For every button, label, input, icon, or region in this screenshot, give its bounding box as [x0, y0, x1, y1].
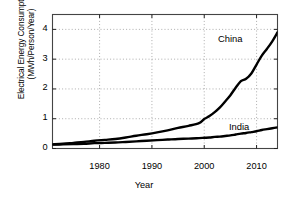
chart-figure: Electrical Energy Consumption (MWh/Perso… [0, 0, 288, 199]
y-tick-label: 4 [28, 23, 48, 33]
series-label-china: China [218, 33, 243, 44]
x-tick-label: 1980 [80, 161, 120, 171]
y-axis-label-line1: Electrical Energy Consumption [16, 0, 27, 99]
y-axis-label-line2: (MWh/Person/Year) [26, 9, 37, 80]
series-label-india: India [229, 121, 249, 132]
y-tick-label: 2 [28, 82, 48, 92]
x-axis-label: Year [0, 180, 288, 190]
x-tick-label: 2010 [237, 161, 277, 171]
y-tick-label: 3 [28, 53, 48, 63]
y-tick-label: 1 [28, 112, 48, 122]
x-tick-label: 2000 [184, 161, 224, 171]
y-tick-label: 0 [28, 142, 48, 152]
x-tick-label: 1990 [132, 161, 172, 171]
